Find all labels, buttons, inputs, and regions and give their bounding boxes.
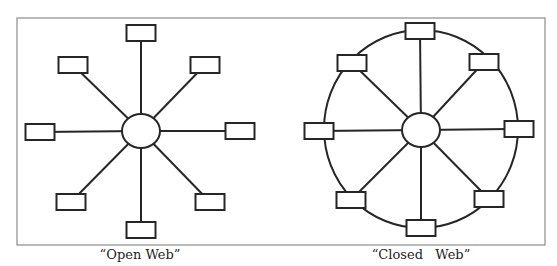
- closed-web-caption: “Closed Web”: [351, 247, 491, 263]
- hub-node: [402, 113, 440, 147]
- node-box-top-left: [338, 55, 367, 71]
- hub-node: [122, 114, 160, 148]
- node-box-top-right: [470, 54, 499, 70]
- node-box-bottom: [127, 222, 156, 238]
- node-box-top-left: [59, 57, 88, 73]
- node-box-left: [26, 124, 55, 140]
- node-box-top: [127, 25, 156, 41]
- node-box-bottom-right: [475, 191, 504, 207]
- node-box-top: [406, 23, 435, 39]
- node-box-bottom-right: [196, 194, 225, 210]
- closed-web-diagram: [305, 23, 534, 236]
- open-web-diagram: [26, 25, 255, 238]
- node-box-left: [305, 123, 334, 139]
- node-box-right: [505, 121, 534, 137]
- node-box-top-right: [191, 57, 220, 73]
- node-box-right: [226, 123, 255, 139]
- open-web-caption: “Open Web”: [70, 247, 210, 263]
- node-box-bottom-left: [57, 194, 86, 210]
- node-box-bottom-left: [337, 192, 366, 208]
- web-diagrams-figure: [0, 0, 557, 266]
- node-box-bottom: [407, 220, 436, 236]
